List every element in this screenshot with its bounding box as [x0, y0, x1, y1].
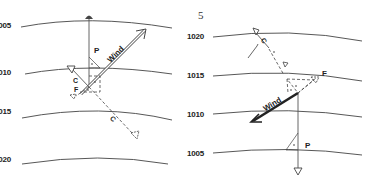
isobar-line — [21, 21, 172, 28]
pressure-arrowhead-icon — [294, 168, 302, 175]
pressure-label: P — [305, 141, 311, 150]
friction-label: F — [322, 69, 327, 78]
isobar-line — [213, 111, 362, 117]
coriolis-arrowhead-icon — [253, 28, 259, 35]
friction-arrowhead-icon — [70, 94, 76, 99]
wind-label: Wind — [106, 44, 126, 64]
pressure-label: P — [94, 46, 100, 55]
pressure-arrowhead-icon — [85, 16, 93, 20]
isobar-line — [22, 111, 172, 120]
isobar-line — [213, 73, 362, 81]
coriolis-dashed-arrowhead-icon — [131, 131, 139, 139]
coriolis-label: C — [260, 37, 269, 45]
coriolis-label: C — [73, 77, 78, 84]
friction-label: F — [74, 86, 79, 93]
coriolis-dashed-label: C — [109, 114, 118, 123]
coriolis-dashed-vector — [89, 87, 133, 134]
wind-force-diagram: P Wind C F C P Wind C — [0, 0, 378, 186]
coriolis-vector — [248, 46, 257, 58]
isobar-line — [25, 68, 172, 74]
isobar-line — [213, 33, 362, 41]
coriolis-arrowhead-icon — [67, 66, 75, 73]
isobar-line — [22, 158, 168, 164]
